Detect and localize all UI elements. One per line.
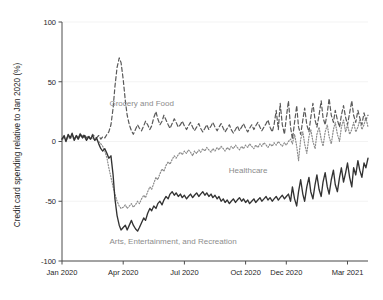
series-annotation: Healthcare	[229, 166, 268, 175]
series-annotation: Arts, Entertainment, and Recreation	[109, 237, 236, 246]
x-tick-label: Oct 2020	[230, 268, 260, 277]
x-tick-label: Jul 2020	[170, 268, 198, 277]
series-line-arts-entertainment-and-recreation	[62, 133, 368, 231]
y-axis: -100-50050100	[41, 18, 62, 266]
y-axis-title: Credit card spending relative to Jan 202…	[13, 63, 22, 228]
y-tick-label: 50	[48, 78, 56, 87]
credit-card-spending-chart: -100-50050100 Jan 2020Apr 2020Jul 2020Oc…	[0, 0, 383, 300]
series-line-grocery-and-food	[62, 58, 368, 140]
series-lines	[62, 58, 368, 231]
y-tick-label: -100	[41, 257, 56, 266]
x-tick-label: Dec 2020	[270, 268, 302, 277]
x-axis: Jan 2020Apr 2020Jul 2020Oct 2020Dec 2020…	[47, 261, 368, 277]
x-tick-label: Mar 2021	[332, 268, 364, 277]
y-tick-label: 100	[43, 18, 56, 27]
x-tick-label: Apr 2020	[108, 268, 138, 277]
x-tick-label: Jan 2020	[47, 268, 78, 277]
chart-plot-area: -100-50050100 Jan 2020Apr 2020Jul 2020Oc…	[0, 0, 383, 300]
series-annotation: Grocery and Food	[109, 99, 173, 108]
y-tick-label: -50	[45, 197, 56, 206]
y-tick-label: 0	[52, 137, 56, 146]
